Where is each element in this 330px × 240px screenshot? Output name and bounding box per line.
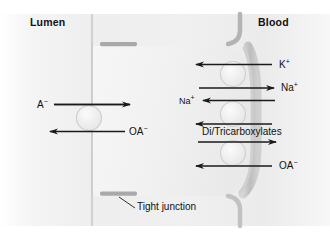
compartment-label-blood: Blood <box>258 17 289 28</box>
label-k-plus: K+ <box>279 58 290 70</box>
label-na-plus-out-text: Na <box>281 82 294 93</box>
label-oa-minus-basolateral: OA− <box>279 159 298 171</box>
label-k-plus-text: K <box>279 59 286 70</box>
label-k-plus-charge: + <box>286 58 290 65</box>
label-oa-minus-basolateral-charge: − <box>293 159 297 166</box>
annotation-tight-junction: Tight junction <box>137 202 196 212</box>
label-oa-minus-basolateral-text: OA <box>279 160 293 171</box>
label-oa-minus-apical-text: OA <box>129 126 143 137</box>
diagram-canvas: Lumen Blood A− OA− K+ Na+ Na+ Di/Tricarb… <box>0 0 330 240</box>
label-oa-minus-apical: OA− <box>129 125 148 137</box>
tight-junction-top <box>100 42 137 46</box>
label-na-plus-in-text: Na <box>179 96 191 106</box>
label-na-plus-out: Na+ <box>281 81 298 93</box>
label-a-minus-text: A <box>37 99 44 110</box>
transporter-basolateral-cotransporter <box>221 102 246 127</box>
transporter-apical-exchanger <box>77 106 102 131</box>
label-na-plus-out-charge: + <box>294 81 298 88</box>
label-di-tricarboxylates: Di/Tricarboxylates <box>202 127 282 137</box>
compartment-label-lumen: Lumen <box>30 17 65 28</box>
label-a-minus: A− <box>37 98 48 110</box>
label-na-plus-in: Na+ <box>179 94 195 106</box>
label-na-plus-in-charge: + <box>191 94 195 101</box>
tight-junction-bottom <box>100 192 137 196</box>
label-a-minus-charge: − <box>44 98 48 105</box>
label-oa-minus-apical-charge: − <box>143 125 147 132</box>
transporter-basolateral-pump <box>221 62 246 87</box>
transporter-basolateral-oa-exchanger <box>221 141 246 166</box>
